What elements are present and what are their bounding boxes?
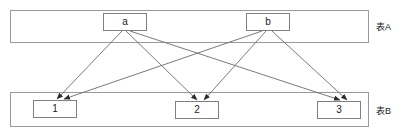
node-a[interactable]: a [103, 13, 147, 31]
container-tableA [11, 11, 369, 43]
node-n3[interactable]: 3 [317, 101, 361, 119]
edge-lines [57, 31, 347, 100]
node-n2[interactable]: 2 [175, 101, 219, 119]
edge-b-2 [204, 31, 266, 100]
node-b[interactable]: b [246, 13, 290, 31]
edge-a-1 [57, 31, 122, 99]
table-label-labelB: 表B [376, 104, 391, 117]
table-label-labelA: 表A [376, 20, 391, 33]
node-n1[interactable]: 1 [33, 100, 77, 118]
diagram-canvas: ab123表A表B [0, 0, 412, 133]
